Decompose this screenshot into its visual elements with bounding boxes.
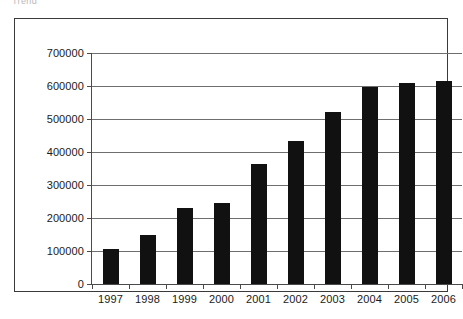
x-axis-slot: 1999 — [166, 53, 203, 284]
y-axis-label: 300000 — [47, 179, 84, 191]
x-axis-label: 2006 — [431, 293, 456, 305]
y-axis-label: 400000 — [47, 146, 84, 158]
x-axis-tick — [351, 284, 352, 289]
x-axis-slot: 2004 — [351, 53, 388, 284]
clipped-header-text: Trend — [12, 0, 102, 8]
x-axis-slot: 2000 — [203, 53, 240, 284]
x-axis-slot: 2002 — [277, 53, 314, 284]
x-axis-slot: 2006 — [425, 53, 462, 284]
x-axis-tick — [240, 284, 241, 289]
plot-area: 0100000200000300000400000500000600000700… — [91, 53, 462, 284]
x-axis-label: 2004 — [357, 293, 382, 305]
x-axis-slot: 1997 — [92, 53, 129, 284]
y-axis-label: 100000 — [47, 245, 84, 257]
y-axis-label: 700000 — [47, 47, 84, 59]
x-axis-label: 1999 — [172, 293, 197, 305]
x-axis-label: 2000 — [209, 293, 234, 305]
x-axis-tick — [425, 284, 426, 289]
x-axis-tick — [92, 284, 93, 289]
x-axis-tick — [166, 284, 167, 289]
x-axis-label: 1998 — [135, 293, 160, 305]
x-axis-label: 1997 — [98, 293, 123, 305]
x-axis-label: 2003 — [320, 293, 345, 305]
x-axis-slot: 2005 — [388, 53, 425, 284]
x-axis-tick — [129, 284, 130, 289]
x-axis-slot: 1998 — [129, 53, 166, 284]
x-axis-tick — [203, 284, 204, 289]
y-axis-label: 500000 — [47, 113, 84, 125]
x-axis-slot: 2003 — [314, 53, 351, 284]
x-axis-label: 2002 — [283, 293, 308, 305]
chart-frame: 0100000200000300000400000500000600000700… — [14, 18, 448, 292]
y-axis-label: 0 — [78, 278, 84, 290]
y-axis-label: 200000 — [47, 212, 84, 224]
y-axis-label: 600000 — [47, 80, 84, 92]
x-axis-slot: 2001 — [240, 53, 277, 284]
x-axis-tick — [314, 284, 315, 289]
x-axis-tick — [277, 284, 278, 289]
bar-chart-figure: Trend 0100000200000300000400000500000600… — [0, 0, 463, 319]
x-axis-label: 2005 — [394, 293, 419, 305]
x-axis-label: 2001 — [246, 293, 271, 305]
x-axis-tick — [388, 284, 389, 289]
